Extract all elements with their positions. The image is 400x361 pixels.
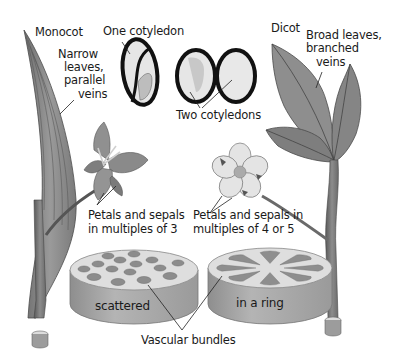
monocot-leaf-label-line-4: veins	[78, 88, 107, 101]
vascular-bundles-label: Vascular bundles	[141, 334, 236, 347]
dicot-heading: Dicot	[271, 22, 300, 35]
dicot-leaf-label-line-3: veins	[316, 56, 345, 69]
in-a-ring-label: in a ring	[236, 297, 284, 310]
monocot-flower-label-line-2: in multiples of 3	[88, 223, 177, 236]
one-cotyledon-label: One cotyledon	[103, 25, 184, 38]
monocot-flower	[84, 122, 148, 200]
monocot-dicot-diagram: Monocot Narrow leaves, parallel veins On…	[0, 0, 400, 361]
dicot-leaf-label-line-2: branched	[306, 42, 359, 55]
dicot-flower	[209, 143, 271, 202]
dicot-flower-label-line-1: Petals and sepals in	[193, 209, 303, 222]
two-cotyledons-label: Two cotyledons	[176, 109, 261, 122]
monocot-flower-label-line-1: Petals and sepals	[88, 209, 185, 222]
dicot-flower-label-line-2: multiples of 4 or 5	[193, 223, 294, 236]
monocot-seed	[119, 37, 162, 107]
dicot-seed	[177, 50, 255, 102]
dicot-stem-section	[208, 248, 332, 324]
scattered-label: scattered	[95, 300, 150, 313]
monocot-heading: Monocot	[35, 26, 83, 39]
monocot-leaf-label-line-3: parallel	[64, 74, 105, 87]
